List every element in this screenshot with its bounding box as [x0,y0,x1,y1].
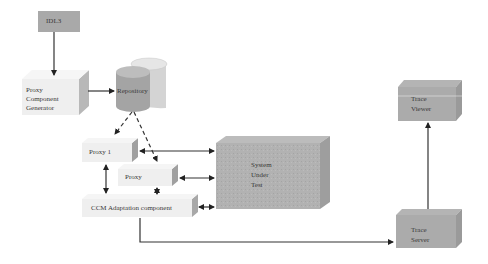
idl3-label: IDL3 [46,17,61,26]
diagram-canvas [0,0,488,264]
generator-label-line1: Proxy [26,86,43,95]
sut-label-line2: Under [251,171,269,180]
edge-repository-proxy1 [115,112,132,134]
generator-label-line3: Generator [26,104,54,113]
trace-server-label-line2: Server [411,236,429,245]
system-under-test-node [216,136,330,209]
sut-label-line1: System [251,161,272,170]
repository-label: Repository [117,87,148,96]
generator-label-line2: Component [26,95,59,104]
edge-ccm-traceserver [140,218,393,242]
proxy1-label: Proxy 1 [89,148,111,157]
trace-viewer-label-line1: Trace [411,95,427,104]
trace-server-label-line1: Trace [411,226,427,235]
proxy-label: Proxy [125,173,142,182]
sut-label-line3: Test [251,181,263,190]
repository-node [116,58,167,112]
ccm-label: CCM Adaptation component [91,204,172,213]
trace-viewer-label-line2: Viewer [411,105,431,114]
trace-viewer-node [398,80,462,121]
